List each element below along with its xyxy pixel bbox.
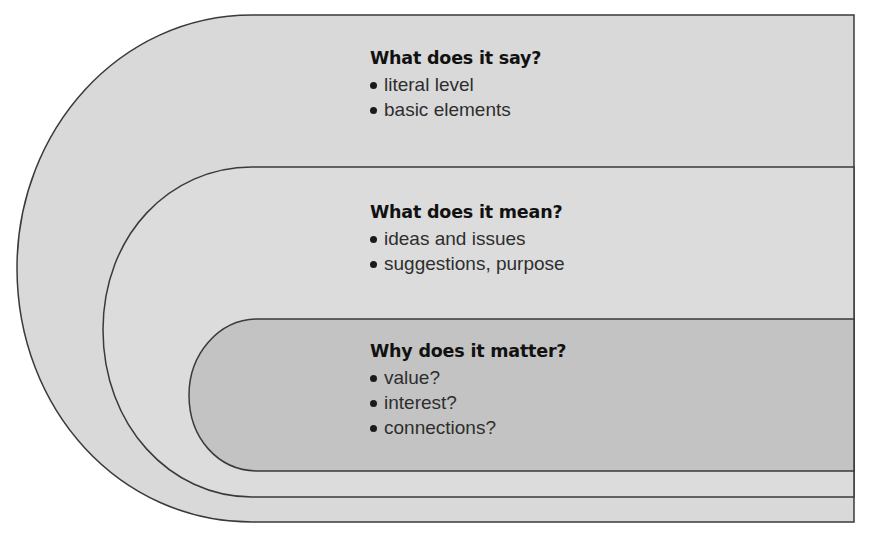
bullet-item: interest? bbox=[370, 390, 566, 415]
bullet-item: literal level bbox=[370, 72, 541, 97]
bullet-item: ideas and issues bbox=[370, 226, 565, 251]
outer-layer-bullets: literal level basic elements bbox=[370, 72, 541, 122]
bullet-text: connections? bbox=[384, 417, 496, 438]
bullet-icon bbox=[370, 236, 377, 243]
bullet-item: value? bbox=[370, 365, 566, 390]
bullet-text: literal level bbox=[384, 74, 474, 95]
outer-layer-text: What does it say? literal level basic el… bbox=[370, 47, 541, 122]
bullet-text: ideas and issues bbox=[384, 228, 526, 249]
middle-layer-bullets: ideas and issues suggestions, purpose bbox=[370, 226, 565, 276]
bullet-icon bbox=[370, 107, 377, 114]
bullet-item: basic elements bbox=[370, 97, 541, 122]
bullet-text: interest? bbox=[384, 392, 457, 413]
bullet-text: value? bbox=[384, 367, 440, 388]
bullet-text: basic elements bbox=[384, 99, 511, 120]
bullet-icon bbox=[370, 82, 377, 89]
middle-layer-text: What does it mean? ideas and issues sugg… bbox=[370, 201, 565, 276]
bullet-icon bbox=[370, 261, 377, 268]
middle-layer-heading: What does it mean? bbox=[370, 201, 565, 223]
bullet-text: suggestions, purpose bbox=[384, 253, 565, 274]
outer-layer-heading: What does it say? bbox=[370, 47, 541, 69]
inner-layer-heading: Why does it matter? bbox=[370, 340, 566, 362]
bullet-icon bbox=[370, 425, 377, 432]
inner-layer-bullets: value? interest? connections? bbox=[370, 365, 566, 440]
bullet-icon bbox=[370, 375, 377, 382]
bullet-item: connections? bbox=[370, 415, 566, 440]
inner-layer-text: Why does it matter? value? interest? con… bbox=[370, 340, 566, 440]
bullet-item: suggestions, purpose bbox=[370, 251, 565, 276]
bullet-icon bbox=[370, 400, 377, 407]
